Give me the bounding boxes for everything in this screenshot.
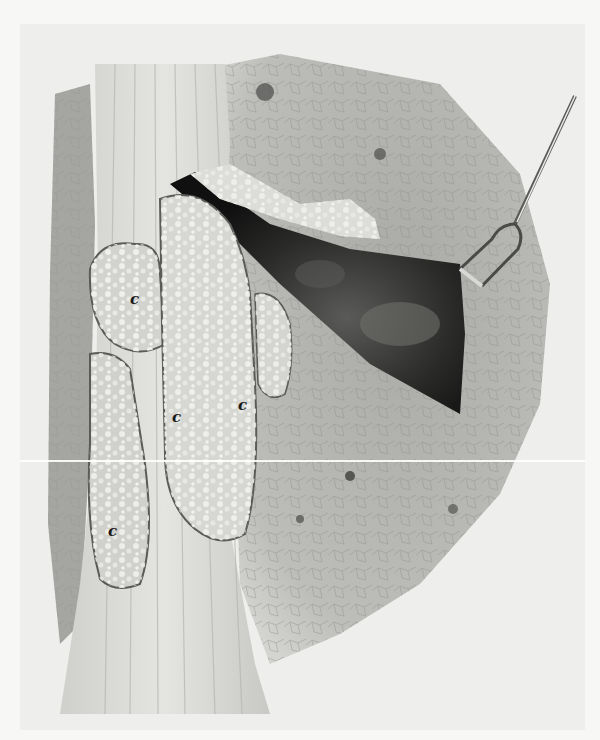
label-c-upper-left: c [130,292,139,307]
scan-artifact-line [20,460,585,462]
label-c-center-left: c [172,410,181,425]
illustration [20,24,585,730]
anatomical-plate: c c c c [20,24,585,730]
label-c-center-right: c [238,398,247,413]
label-c-lower-left: c [108,524,117,539]
